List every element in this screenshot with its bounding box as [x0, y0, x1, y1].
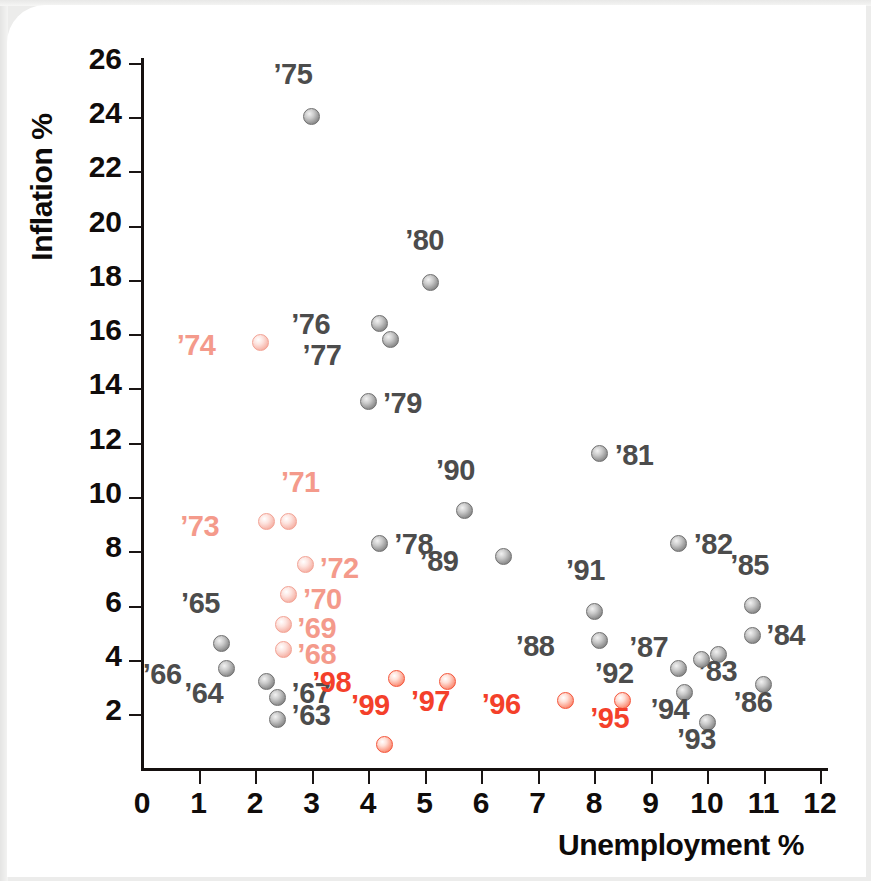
data-point-marker: [670, 535, 687, 552]
data-point-marker: [269, 689, 286, 706]
x-tick-label: 5: [403, 786, 447, 820]
data-point-label: ’98: [312, 666, 351, 699]
data-point-label: ’65: [181, 587, 220, 620]
data-point-label: ’76: [291, 308, 330, 341]
data-point-marker: [258, 513, 275, 530]
x-tick-mark: [199, 771, 201, 784]
x-tick-mark: [368, 771, 370, 784]
chart-page: 0123456789101112 2624222018161412108642 …: [0, 0, 871, 881]
data-point-marker: [591, 632, 608, 649]
data-point-marker: [376, 736, 393, 753]
data-point-label: ’79: [383, 387, 422, 420]
data-point-label: ’90: [436, 454, 475, 487]
y-tick-label: 16: [38, 313, 122, 347]
x-tick-label: 4: [346, 786, 390, 820]
data-point-marker: [586, 603, 603, 620]
data-point-marker: [591, 445, 608, 462]
data-point-label: ’85: [730, 549, 769, 582]
x-tick-label: 9: [629, 786, 673, 820]
data-point-marker: [303, 108, 320, 125]
data-point-marker: [382, 331, 399, 348]
data-point-marker: [275, 616, 292, 633]
y-tick-mark: [129, 226, 142, 228]
y-tick-mark: [129, 497, 142, 499]
y-tick-mark: [129, 551, 142, 553]
y-tick-label: 2: [38, 693, 122, 727]
data-point-label: ’91: [566, 554, 605, 587]
x-tick-mark: [255, 771, 257, 784]
data-point-marker: [388, 670, 405, 687]
data-point-label: ’99: [351, 689, 390, 722]
y-tick-label: 8: [38, 530, 122, 564]
x-tick-mark: [538, 771, 540, 784]
x-tick-mark: [312, 771, 314, 784]
data-point-marker: [252, 334, 269, 351]
data-point-label: ’64: [184, 677, 223, 710]
x-tick-label: 2: [233, 786, 277, 820]
data-point-label: ’77: [303, 339, 342, 372]
data-point-marker: [670, 660, 687, 677]
y-tick-label: 26: [38, 42, 122, 76]
data-point-label: ’94: [650, 693, 689, 726]
data-point-label: ’89: [420, 545, 459, 578]
scatter-plot: 0123456789101112 2624222018161412108642 …: [0, 0, 871, 881]
y-tick-mark: [129, 443, 142, 445]
data-point-marker: [371, 315, 388, 332]
x-axis-title: Unemployment %: [558, 828, 804, 862]
x-tick-label: 6: [459, 786, 503, 820]
data-point-marker: [269, 711, 286, 728]
data-point-marker: [557, 692, 574, 709]
x-tick-mark: [594, 771, 596, 784]
data-point-label: ’71: [281, 466, 320, 499]
data-point-label: ’88: [516, 630, 555, 663]
y-tick-mark: [129, 714, 142, 716]
y-tick-mark: [129, 606, 142, 608]
data-point-label: ’70: [303, 583, 342, 616]
data-point-marker: [456, 502, 473, 519]
data-point-marker: [218, 660, 235, 677]
data-point-marker: [280, 513, 297, 530]
data-point-label: ’82: [694, 528, 733, 561]
data-point-marker: [258, 673, 275, 690]
data-point-label: ’66: [143, 658, 182, 691]
x-tick-label: 1: [177, 786, 221, 820]
data-point-marker: [371, 535, 388, 552]
y-tick-mark: [129, 280, 142, 282]
x-tick-mark: [764, 771, 766, 784]
x-tick-mark: [425, 771, 427, 784]
data-point-label: ’72: [320, 552, 359, 585]
y-tick-label: 10: [38, 476, 122, 510]
y-tick-mark: [129, 117, 142, 119]
data-point-label: ’75: [274, 58, 313, 91]
data-point-label: ’86: [734, 686, 773, 719]
x-tick-mark: [707, 771, 709, 784]
data-point-label: ’95: [590, 702, 629, 735]
data-point-label: ’73: [180, 510, 219, 543]
data-point-label: ’80: [405, 224, 444, 257]
data-point-marker: [213, 635, 230, 652]
data-point-marker: [744, 597, 761, 614]
data-point-label: ’69: [297, 612, 336, 645]
data-point-label: ’87: [629, 631, 668, 664]
x-tick-label: 10: [685, 786, 729, 820]
data-point-label: ’92: [595, 657, 634, 690]
y-axis-title: Inflation %: [25, 92, 59, 282]
x-tick-label: 3: [290, 786, 334, 820]
data-point-label: ’97: [411, 685, 450, 718]
data-point-marker: [422, 274, 439, 291]
y-tick-mark: [129, 660, 142, 662]
data-point-marker: [360, 393, 377, 410]
x-tick-label: 12: [798, 786, 842, 820]
data-point-label: ’96: [482, 688, 521, 721]
y-tick-mark: [129, 334, 142, 336]
data-point-label: ’93: [677, 723, 716, 756]
x-tick-label: 0: [120, 786, 164, 820]
x-tick-label: 7: [516, 786, 560, 820]
y-tick-mark: [129, 63, 142, 65]
data-point-label: ’74: [177, 329, 216, 362]
x-tick-mark: [820, 771, 822, 784]
y-tick-mark: [129, 388, 142, 390]
x-tick-mark: [481, 771, 483, 784]
data-point-label: ’81: [615, 439, 654, 472]
data-point-marker: [275, 641, 292, 658]
